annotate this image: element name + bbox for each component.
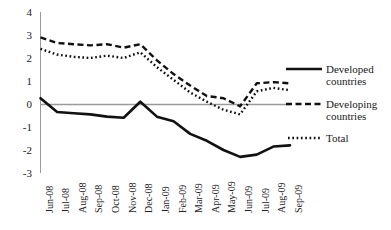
- legend-label-developing-line1: Developing: [326, 98, 377, 110]
- legend-label-developed: Developed countries: [326, 63, 374, 87]
- y-axis-tick-label: 2: [10, 53, 32, 64]
- x-axis-tick-label: Feb-09: [178, 185, 188, 213]
- data-series-layer: [41, 37, 291, 157]
- legend-label-total: Total: [326, 132, 348, 144]
- series-line-developing-countries: [41, 37, 291, 106]
- x-axis-tick-label: May-09: [227, 181, 237, 213]
- y-axis-tick-label: 3: [10, 30, 32, 41]
- x-axis-tick-label: Sep-09: [294, 185, 304, 213]
- x-axis-tick-label: Oct-08: [111, 185, 121, 213]
- x-axis-tick-label: Nov-08: [128, 182, 138, 213]
- x-axis-tick-label: Aug-09: [277, 182, 287, 213]
- y-axis-tick-label: -1: [10, 122, 32, 133]
- x-axis-tick-label: Aug-08: [78, 182, 88, 213]
- x-axis-tick-label: Mar-09: [194, 183, 204, 213]
- y-axis-tick-label: 0: [10, 99, 32, 110]
- y-axis-tick-label: 1: [10, 76, 32, 87]
- x-axis-tick-label: Jun-08: [45, 186, 55, 213]
- legend-label-developing: Developing countries: [326, 98, 377, 122]
- x-axis-tick-label: Jul-09: [261, 188, 271, 213]
- legend-label-developed-line1: Developed: [326, 63, 374, 75]
- legend-label-developing-line2: countries: [326, 110, 377, 122]
- y-axis-tick-label: -2: [10, 145, 32, 156]
- x-axis-tick-label: Dec-08: [144, 184, 154, 213]
- x-axis-tick-label: Jul-08: [61, 188, 71, 213]
- x-axis-tick-label: Jan-09: [161, 186, 171, 213]
- legend-label-total-line1: Total: [326, 132, 348, 144]
- legend-label-developed-line2: countries: [326, 75, 374, 87]
- x-axis-tick-label: Sep-08: [94, 185, 104, 213]
- y-axis-tick-label: -3: [10, 168, 32, 179]
- x-axis-tick-label: Jun-09: [244, 186, 254, 213]
- legend-swatches: [286, 69, 322, 138]
- y-axis-tick-label: 4: [10, 7, 32, 18]
- series-line-developed-countries: [41, 98, 291, 157]
- x-axis-tick-label: Apr-09: [211, 184, 221, 213]
- line-chart: 43210-1-2-3 Jun-08Jul-08Aug-08Sep-08Oct-…: [0, 0, 391, 230]
